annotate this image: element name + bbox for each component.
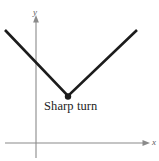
x-axis-label: x bbox=[152, 138, 156, 147]
sharp-turn-figure: y x Sharp turn bbox=[0, 0, 159, 161]
graph-canvas bbox=[0, 0, 159, 161]
y-axis-label: y bbox=[33, 8, 37, 17]
v-shaped-curve bbox=[5, 30, 137, 96]
sharp-turn-annotation: Sharp turn bbox=[44, 100, 97, 113]
x-axis-arrow-icon bbox=[143, 140, 151, 146]
